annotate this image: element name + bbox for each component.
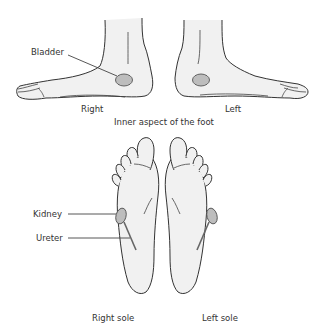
right-sole (68, 138, 159, 294)
bladder-reflex-area-left (193, 74, 210, 86)
left-view-label: Left (225, 105, 241, 114)
right-sole-label: Right sole (92, 314, 134, 323)
left-foot-inner-aspect (175, 20, 308, 99)
right-foot-inner-aspect (17, 18, 153, 99)
left-sole-label: Left sole (202, 314, 238, 323)
bladder-label: Bladder (31, 48, 64, 57)
bladder-reflex-area-right (116, 74, 133, 86)
kidney-label: Kidney (33, 210, 62, 219)
ureter-label: Ureter (36, 234, 63, 243)
inner-aspect-caption: Inner aspect of the foot (114, 118, 214, 127)
left-sole (165, 138, 219, 294)
right-view-label: Right (81, 105, 103, 114)
